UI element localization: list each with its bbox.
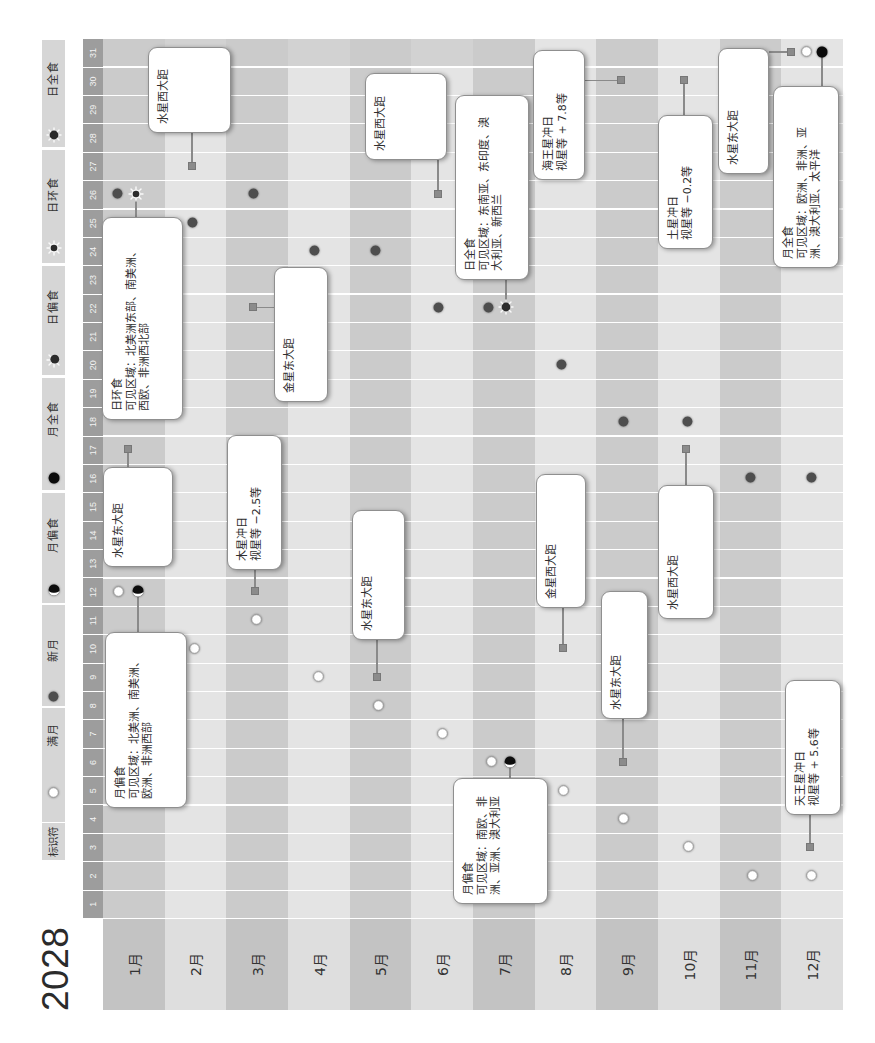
- month-label: 5月: [350, 919, 412, 1010]
- month-label: 8月: [535, 919, 597, 1010]
- day-number: 5: [83, 776, 103, 804]
- legend-label: 满月: [42, 723, 65, 747]
- total-solar-eclipse-icon: [46, 127, 62, 143]
- day-number: 12: [83, 578, 103, 606]
- full-moon-icon: [806, 870, 817, 881]
- callout-may-mercury-east-elongation: 水星东大距: [352, 510, 405, 640]
- legend-item-annular-solar-eclipse: 日环食: [42, 150, 65, 263]
- event-square-icon: [249, 304, 257, 312]
- day-number: 11: [83, 606, 103, 634]
- day-number: 27: [83, 152, 103, 180]
- month-label: 1月: [103, 919, 165, 1010]
- connector-line: [376, 640, 378, 677]
- connector-line: [685, 450, 687, 485]
- event-square-icon: [373, 673, 381, 681]
- partial-lunar-eclipse-icon: [504, 756, 516, 768]
- day-number: 14: [83, 521, 103, 549]
- connector-line: [562, 608, 564, 648]
- annular-solar-eclipse-icon: [128, 186, 144, 202]
- annular-solar-eclipse-icon: [46, 240, 62, 256]
- callout-sep-neptune-opposition: 海王星冲日 视星等 + 7.8等: [533, 50, 585, 180]
- connector-line: [437, 160, 439, 194]
- day-number: 10: [83, 634, 103, 662]
- callout-title: 水星东大距: [727, 57, 741, 165]
- new-moon-icon: [309, 245, 320, 256]
- month-label: 10月: [658, 919, 720, 1010]
- callout-title: 水星东大距: [361, 519, 375, 631]
- legend-label: 日环食: [42, 177, 65, 213]
- full-moon-icon: [48, 788, 59, 799]
- callout-title: 木星冲日: [236, 444, 250, 561]
- full-moon-icon: [113, 586, 124, 597]
- month-label: 4月: [288, 919, 350, 1010]
- connector-line: [135, 200, 137, 217]
- label-divider: [103, 918, 843, 919]
- legend-label: 日偏食: [42, 289, 65, 325]
- month-label: 7月: [473, 919, 535, 1010]
- month-label: 2月: [165, 919, 227, 1010]
- callout-dec-uranus-opposition: 天王星冲日 视星等 + 5.6等: [785, 680, 841, 815]
- full-moon-icon: [747, 870, 758, 881]
- callout-text: 可见区域：南欧、非: [476, 787, 490, 895]
- day-number: 25: [83, 209, 103, 237]
- callout-text: 可见区域：欧洲、非洲、亚: [796, 95, 810, 259]
- legend-header: 标识符: [42, 823, 65, 860]
- callout-jan-mercury-east-elongation: 水星东大距: [103, 467, 173, 567]
- legend-label: 月偏食: [42, 517, 65, 553]
- event-square-icon: [188, 162, 196, 170]
- full-moon-icon: [437, 728, 448, 739]
- day-number: 8: [83, 691, 103, 719]
- month-label-column: 1月 2月 3月 4月 5月 6月 7月 8月 9月 10月 11月 12月: [103, 919, 843, 1010]
- month-label: 11月: [720, 919, 782, 1010]
- day-number: 30: [83, 67, 103, 95]
- legend-item-total-solar-eclipse: 日全食: [42, 40, 65, 147]
- full-moon-icon: [313, 671, 324, 682]
- callout-mar-jupiter-opposition: 木星冲日 视星等 −2.5等: [227, 435, 282, 570]
- connector-line: [585, 80, 621, 82]
- day-number: 2: [83, 861, 103, 889]
- event-square-icon: [806, 843, 814, 851]
- day-number: 21: [83, 322, 103, 350]
- callout-aug-venus-west-elongation: 金星西大距: [536, 474, 586, 608]
- day-number: 1: [83, 890, 103, 918]
- callout-title: 金星东大距: [283, 276, 297, 393]
- callout-oct-mercury-west-elongation: 水星西大距: [658, 485, 714, 619]
- callout-text: 视星等 + 7.8等: [556, 59, 570, 171]
- callout-sep-mercury-east-elongation: 水星东大距: [601, 591, 648, 719]
- day-number: 31: [83, 38, 103, 66]
- legend-item-new-moon: 新月: [42, 605, 65, 706]
- event-square-icon: [619, 758, 627, 766]
- new-moon-icon: [112, 189, 123, 200]
- full-moon-icon: [618, 813, 629, 824]
- event-square-icon: [617, 76, 625, 84]
- callout-text: 可见区域：北美洲东部、南美洲、: [125, 226, 139, 411]
- event-square-icon: [251, 588, 259, 596]
- day-header-row: 1 2 3 4 5 6 7 8 9 10 11 12 13 14 15 16 1…: [83, 38, 103, 919]
- partial-lunar-eclipse-icon: [48, 584, 60, 596]
- day-number: 3: [83, 833, 103, 861]
- year-title: 2028: [37, 927, 74, 1011]
- total-lunar-eclipse-icon: [816, 46, 828, 58]
- event-square-icon: [124, 446, 132, 454]
- callout-dec-total-lunar-eclipse: 月全食 可见区域：欧洲、非洲、亚 洲、澳大利亚、太平洋: [773, 86, 839, 268]
- connector-line: [127, 453, 129, 467]
- callout-text: 可见区域：北美洲、南美洲、: [128, 641, 142, 799]
- legend-item-partial-solar-eclipse: 日偏食: [42, 266, 65, 375]
- callout-text: 视星等 −0.2等: [681, 124, 695, 240]
- month-label: 9月: [596, 919, 658, 1010]
- full-moon-icon: [486, 756, 497, 767]
- full-moon-icon: [801, 47, 812, 58]
- callout-text: 洲、澳大利亚、太平洋: [809, 95, 823, 259]
- callout-title: 水星东大距: [112, 476, 126, 558]
- callout-jul-partial-lunar-eclipse: 月偏食 可见区域：南欧、非 洲、亚洲、澳大利亚: [453, 778, 548, 904]
- partial-lunar-eclipse-icon: [132, 586, 144, 598]
- event-square-icon: [559, 644, 567, 652]
- new-moon-icon: [556, 359, 567, 370]
- callout-jan-partial-lunar-eclipse: 月偏食 可见区域：北美洲、南美洲、 欧洲、非洲西部: [105, 632, 187, 808]
- total-lunar-eclipse-icon: [48, 472, 60, 484]
- day-number: 29: [83, 95, 103, 123]
- day-number: 7: [83, 719, 103, 747]
- legend-item-total-lunar-eclipse: 月全食: [42, 378, 65, 490]
- new-moon-icon: [806, 472, 817, 483]
- callout-text: 欧洲、非洲西部: [141, 641, 155, 799]
